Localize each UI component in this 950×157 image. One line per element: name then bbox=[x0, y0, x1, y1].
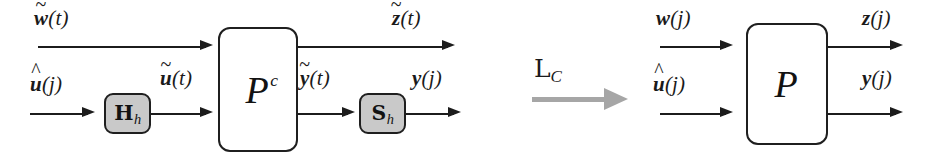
signal-label-z-j: z(j) bbox=[862, 8, 891, 29]
signal-label-w-j: w(j) bbox=[656, 8, 691, 29]
arrow-line-u-hat-left bbox=[30, 113, 88, 115]
signal-label-u-hat-j-right: ^u(j) bbox=[653, 74, 685, 95]
arrow-head-y-tilde bbox=[342, 107, 355, 117]
plant-block-lifted[interactable]: P bbox=[746, 23, 828, 145]
accented-symbol-u-hat: ^u bbox=[653, 74, 665, 95]
accented-symbol-u-hat: ^u bbox=[30, 74, 42, 95]
sampler-block[interactable]: Sh bbox=[359, 93, 406, 134]
hold-block[interactable]: Hh bbox=[104, 93, 151, 134]
hat-accent-icon: ^ bbox=[654, 61, 664, 81]
arrow-line-y-j-left bbox=[406, 113, 454, 115]
block-diagram-figure: ~w(t) ^u(j) Hh ~u(t) Pc ~z(t) ~y(t) Sh bbox=[0, 0, 950, 157]
plant-block-continuous[interactable]: Pc bbox=[218, 27, 298, 152]
signal-label-y-tilde-t: ~y(t) bbox=[300, 68, 330, 89]
accented-symbol-u-tilde: ~u bbox=[160, 68, 172, 89]
arrow-head-z-j bbox=[890, 40, 903, 50]
tilde-accent-icon: ~ bbox=[391, 0, 402, 15]
hold-block-label: Hh bbox=[114, 103, 140, 123]
arrow-head-y-j-right bbox=[890, 107, 903, 117]
arrow-line-w-j bbox=[660, 46, 726, 48]
arrow-head-u-tilde bbox=[200, 107, 213, 117]
signal-label-y-j-right: y(j) bbox=[862, 68, 892, 89]
signal-label-u-tilde-t: ~u(t) bbox=[160, 68, 192, 89]
arrow-line-y-tilde bbox=[298, 113, 348, 115]
arrow-line-u-hat-right bbox=[660, 113, 726, 115]
arrow-head-u-hat-right bbox=[720, 107, 733, 117]
tilde-accent-icon: ~ bbox=[299, 55, 310, 75]
transform-arrow-line bbox=[532, 97, 610, 102]
sampler-block-label: Sh bbox=[372, 103, 394, 123]
arrow-line-u-tilde bbox=[151, 113, 206, 115]
arrow-head-y-j-left bbox=[448, 107, 461, 117]
transform-arrow-head-icon bbox=[604, 88, 628, 110]
signal-label-y-j-left: y(j) bbox=[412, 68, 442, 89]
arrow-line-z-tilde bbox=[298, 46, 448, 48]
hat-accent-icon: ^ bbox=[31, 61, 41, 81]
arrow-line-z-j bbox=[828, 46, 896, 48]
signal-label-u-hat-j-left: ^u(j) bbox=[30, 74, 62, 95]
arrow-head-z-tilde bbox=[442, 40, 455, 50]
plant-block-lifted-label: P bbox=[774, 65, 799, 103]
signal-label-w-tilde-t: ~w(t) bbox=[34, 8, 69, 29]
arrow-line-w-tilde bbox=[38, 46, 206, 48]
arrow-head-w-tilde bbox=[200, 40, 213, 50]
accented-symbol-w-tilde: ~w bbox=[34, 8, 48, 29]
arrow-head-w-j bbox=[720, 40, 733, 50]
tilde-accent-icon: ~ bbox=[160, 55, 171, 75]
tilde-accent-icon: ~ bbox=[36, 0, 47, 15]
accented-symbol-y-tilde: ~y bbox=[300, 68, 310, 89]
lifting-operator-label: LC bbox=[534, 54, 562, 83]
accented-symbol-z-tilde: ~z bbox=[392, 8, 400, 29]
arrow-head-u-hat-left bbox=[82, 107, 95, 117]
plant-block-continuous-label: Pc bbox=[245, 71, 270, 109]
signal-label-z-tilde-t: ~z(t) bbox=[392, 8, 421, 29]
arrow-line-y-j-right bbox=[828, 113, 896, 115]
